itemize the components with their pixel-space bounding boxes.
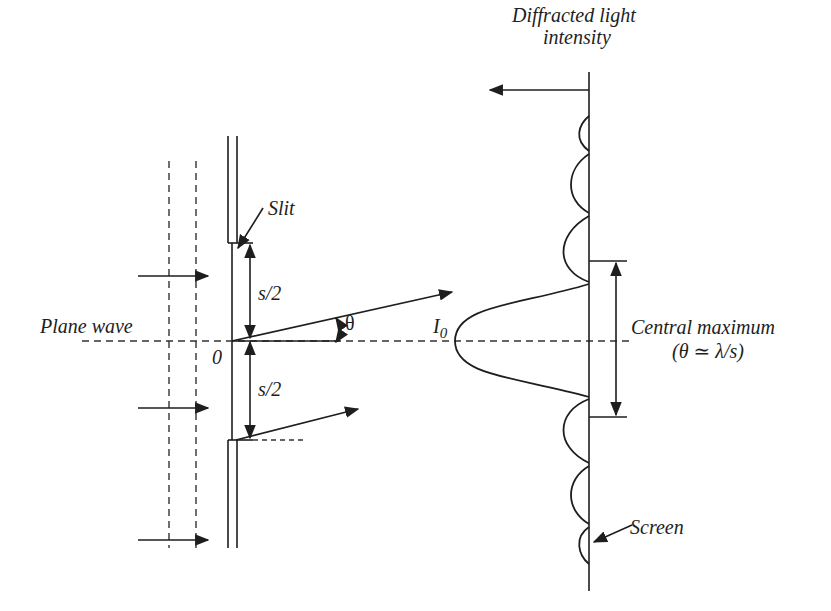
theta-arc: [336, 318, 340, 342]
half-width-bottom-label: s/2: [258, 378, 281, 400]
plane-wavefronts: [169, 161, 196, 548]
diffraction-diagram: Diffracted light intensity Slit s/2 s/2 …: [0, 0, 831, 611]
slit-pointer: [238, 208, 263, 248]
plane-wave-label: Plane wave: [39, 315, 133, 337]
diffracted-ray-edge: [236, 409, 358, 440]
screen-pointer: [594, 525, 632, 542]
intensity-pattern: [455, 116, 589, 564]
screen-label: Screen: [630, 516, 684, 538]
half-width-top-label: s/2: [258, 282, 281, 304]
central-max-label: Central maximum: [631, 316, 775, 338]
intensity-label-line2: intensity: [543, 26, 611, 49]
theta-label: θ: [345, 312, 355, 334]
incident-arrows: [138, 276, 208, 540]
peak-intensity-label: I0: [432, 315, 448, 341]
central-max-dimension: [589, 261, 627, 417]
slit-label: Slit: [268, 197, 295, 219]
central-max-formula: (θ ≃ λ/s): [672, 340, 744, 363]
origin-label: 0: [212, 346, 222, 368]
intensity-label-line1: Diffracted light: [511, 4, 636, 27]
